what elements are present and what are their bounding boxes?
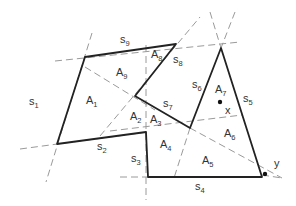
label-A2: A2 <box>130 110 142 125</box>
label-A6: A6 <box>224 127 236 142</box>
label-A8: A8 <box>151 48 163 63</box>
polygon-partition-diagram: s1 s2 s3 s4 s5 s6 s7 s8 s9 A1 A2 A3 A4 A… <box>0 0 296 206</box>
label-s2: s2 <box>97 140 107 155</box>
label-s7: s7 <box>163 97 173 112</box>
label-A9: A9 <box>116 66 128 81</box>
point-x-dot <box>218 100 222 104</box>
side-labels: s1 s2 s3 s4 s5 s6 s7 s8 s9 <box>29 33 253 195</box>
label-s1: s1 <box>29 95 39 110</box>
label-y: y <box>274 157 280 169</box>
point-y-dot <box>263 172 267 176</box>
label-s8: s8 <box>173 53 183 68</box>
vertex-split-line <box>174 128 190 178</box>
solid-boundary <box>57 44 262 177</box>
label-A4: A4 <box>160 138 172 153</box>
diagonal-to-y <box>190 128 282 178</box>
s9-extension <box>55 42 240 61</box>
label-s5: s5 <box>243 92 253 107</box>
label-s9: s9 <box>120 33 130 48</box>
label-A1: A1 <box>86 94 98 109</box>
polygon-outline <box>57 44 262 177</box>
label-A5: A5 <box>202 154 214 169</box>
label-x: x <box>225 104 231 116</box>
label-s4: s4 <box>195 180 205 195</box>
s6-extension <box>210 12 221 48</box>
label-s3: s3 <box>131 152 141 167</box>
label-s6: s6 <box>192 78 202 93</box>
label-A7: A7 <box>215 83 227 98</box>
